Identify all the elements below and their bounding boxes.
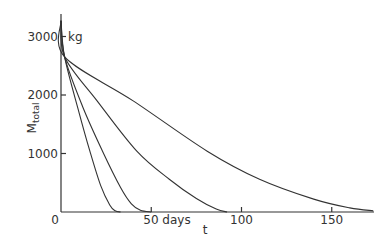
y-tick-label: 3000 (27, 30, 58, 44)
axes (61, 14, 374, 212)
chart: 050 days100150100020003000 kg t Mtotal (0, 0, 390, 244)
curve-2 (61, 21, 151, 212)
curve-3 (61, 21, 227, 212)
x-tick-label: 150 (320, 213, 343, 227)
ticks: 050 days100150100020003000 (27, 30, 343, 228)
curve-4 (58, 21, 373, 211)
x-tick-label: 0 (51, 213, 59, 227)
y-axis-label: Mtotal (25, 103, 41, 134)
curves (58, 21, 373, 212)
curve-1 (61, 21, 121, 212)
y-tick-label: 1000 (27, 147, 58, 161)
x-axis-label: t (203, 223, 208, 237)
y-tick-label: 2000 (27, 88, 58, 102)
y-unit-label: kg (68, 30, 83, 44)
x-tick-label: 50 days (143, 213, 190, 227)
x-tick-label: 100 (230, 213, 253, 227)
